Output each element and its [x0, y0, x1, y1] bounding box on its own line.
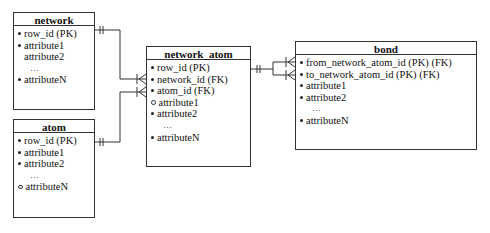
filled-bullet-icon	[18, 78, 21, 81]
attribute-ellipsis: …	[300, 103, 476, 115]
attribute-row-id: row_id (PK)	[18, 28, 94, 40]
attribute-1: attribute1	[18, 147, 94, 159]
entity-network-atom[interactable]: network_atom row_id (PK) network_id (FK)…	[146, 46, 251, 167]
open-bullet-icon	[18, 185, 23, 190]
atom-to-network-atom-link	[95, 92, 146, 142]
entity-title: network_atom	[147, 47, 250, 60]
attribute-ellipsis: …	[151, 120, 250, 132]
attribute-list: from_network_atom_id (PK) (FK) to_networ…	[296, 55, 476, 127]
filled-bullet-icon	[300, 73, 303, 76]
attribute-1: attribute1	[151, 97, 250, 109]
attribute-atom-id: atom_id (FK)	[151, 85, 250, 97]
network-atom-to-bond-link	[251, 62, 295, 75]
attribute-network-id: network_id (FK)	[151, 74, 250, 86]
attribute-list: row_id (PK) attribute1 attribute2 … attr…	[14, 26, 94, 86]
filled-bullet-icon	[151, 78, 154, 81]
entity-title: atom	[14, 120, 94, 133]
filled-bullet-icon	[18, 32, 21, 35]
attribute-1: attribute1	[300, 80, 476, 92]
attribute-n: attributeN	[18, 74, 94, 86]
attribute-ellipsis: …	[18, 170, 94, 182]
no-bullet-icon	[18, 55, 21, 58]
entity-title: bond	[296, 42, 476, 55]
attribute-2: attribute2	[18, 158, 94, 170]
attribute-from-network-atom-id: from_network_atom_id (PK) (FK)	[300, 57, 476, 69]
filled-bullet-icon	[151, 66, 154, 69]
attribute-list: row_id (PK) network_id (FK) atom_id (FK)…	[147, 60, 250, 143]
attribute-to-network-atom-id: to_network_atom_id (PK) (FK)	[300, 69, 476, 81]
attribute-1: attribute1	[18, 40, 94, 52]
entity-network[interactable]: network row_id (PK) attribute1 attribute…	[13, 12, 95, 110]
filled-bullet-icon	[18, 139, 21, 142]
filled-bullet-icon	[300, 84, 303, 87]
entity-bond[interactable]: bond from_network_atom_id (PK) (FK) to_n…	[295, 41, 477, 150]
filled-bullet-icon	[300, 119, 303, 122]
filled-bullet-icon	[151, 112, 154, 115]
filled-bullet-icon	[18, 151, 21, 154]
attribute-n: attributeN	[151, 132, 250, 144]
attribute-2: attribute2	[300, 92, 476, 104]
filled-bullet-icon	[151, 89, 154, 92]
filled-bullet-icon	[18, 44, 21, 47]
attribute-n: attributeN	[300, 115, 476, 127]
attribute-2: attribute2	[18, 51, 94, 63]
attribute-row-id: row_id (PK)	[18, 135, 94, 147]
filled-bullet-icon	[151, 136, 154, 139]
network-to-network-atom-link	[95, 30, 146, 79]
attribute-ellipsis: …	[18, 63, 94, 75]
entity-title: network	[14, 13, 94, 26]
attribute-2: attribute2	[151, 108, 250, 120]
filled-bullet-icon	[18, 162, 21, 165]
attribute-list: row_id (PK) attribute1 attribute2 … attr…	[14, 133, 94, 193]
filled-bullet-icon	[300, 61, 303, 64]
attribute-row-id: row_id (PK)	[151, 62, 250, 74]
entity-atom[interactable]: atom row_id (PK) attribute1 attribute2 ……	[13, 119, 95, 218]
filled-bullet-icon	[300, 96, 303, 99]
attribute-n: attributeN	[18, 181, 94, 193]
open-bullet-icon	[151, 100, 156, 105]
